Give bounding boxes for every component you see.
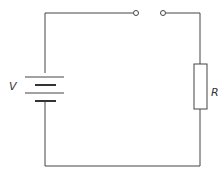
circuit-diagram: V R <box>0 0 223 175</box>
battery-label: V <box>9 80 18 93</box>
wire-top-right <box>166 13 200 64</box>
resistor <box>194 64 207 109</box>
terminal-right <box>161 11 166 16</box>
wire-top-left <box>45 13 133 73</box>
wire-bottom <box>45 101 200 166</box>
terminal-left <box>134 11 139 16</box>
resistor-label: R <box>211 86 219 99</box>
